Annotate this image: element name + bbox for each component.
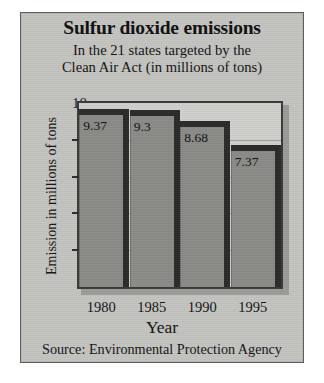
y-axis-tick — [72, 249, 79, 251]
bar-front-face: 7.37 — [231, 151, 275, 287]
plot-frame: 9.379.38.687.37 — [77, 101, 283, 289]
x-axis-tick-labels: 1980198519901995 — [77, 299, 289, 319]
source-note-wrapper: Source: Environmental Protection Agency — [21, 340, 303, 358]
plot-area: 9.379.38.687.37 — [77, 101, 289, 295]
bar-front-face: 9.3 — [130, 116, 174, 287]
x-axis-tick-label: 1990 — [188, 299, 217, 316]
x-axis-label: Year — [21, 317, 303, 338]
bar-side-face — [174, 110, 180, 287]
bar-side-face — [123, 109, 129, 287]
bar-value-label: 7.37 — [235, 155, 259, 169]
y-axis-tick — [72, 176, 79, 178]
chart-figure: Sulfur dioxide emissions In the 21 state… — [20, 12, 304, 363]
bar: 9.3 — [130, 116, 174, 287]
bar: 9.37 — [79, 115, 123, 287]
y-axis-tick — [72, 212, 79, 214]
bar-value-label: 9.3 — [134, 120, 151, 134]
bar-side-face — [224, 121, 230, 287]
bar-front-face: 9.37 — [79, 115, 123, 287]
y-axis-tick — [72, 139, 79, 141]
bar: 8.68 — [180, 127, 224, 287]
bar-value-label: 9.37 — [83, 119, 107, 133]
bar-front-face: 8.68 — [180, 127, 224, 287]
x-axis-tick-label: 1980 — [87, 299, 116, 316]
chart-subtitle: In the 21 states targeted by the Clean A… — [21, 42, 303, 76]
bar-value-label: 8.68 — [184, 131, 208, 145]
x-axis-tick-label: 1995 — [238, 299, 267, 316]
bar-side-face — [275, 145, 281, 287]
source-note: Source: Environmental Protection Agency — [42, 341, 282, 358]
chart-subtitle-line-1: In the 21 states targeted by the — [21, 42, 303, 59]
chart-subtitle-line-2: Clean Air Act (in millions of tons) — [21, 59, 303, 76]
bar: 7.37 — [231, 151, 275, 287]
chart-title: Sulfur dioxide emissions — [21, 18, 303, 38]
x-axis-tick-label: 1985 — [137, 299, 166, 316]
